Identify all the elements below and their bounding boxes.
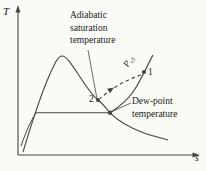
adiabatic-saturation-label: Adiabatic saturation temperature	[70, 9, 115, 47]
dew-point-dot	[108, 111, 112, 115]
point-1-label: 1	[148, 68, 153, 78]
point-1-dot	[142, 70, 146, 74]
ts-diagram: T s Adiabatic saturation temperature Dew…	[0, 0, 206, 171]
point-2-label: 2	[89, 95, 94, 105]
t-axis-arrow-icon	[16, 5, 21, 13]
point-2-dot	[96, 98, 100, 102]
s-axis-label: s	[195, 153, 199, 164]
dew-point-label: Dew-point temperature	[132, 95, 177, 120]
process-arrow-icon	[107, 85, 115, 93]
leader-line-adiabatic	[88, 50, 97, 99]
t-axis-label: T	[3, 6, 9, 17]
